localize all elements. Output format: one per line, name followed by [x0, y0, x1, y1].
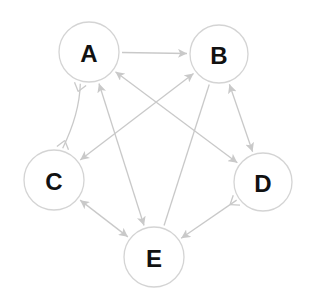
node-label: E	[146, 245, 162, 272]
edge-b-d	[229, 84, 252, 151]
edge-c-e	[80, 200, 128, 237]
edge-a-b	[122, 53, 187, 54]
nodes-layer: ABCDE	[24, 22, 292, 287]
node-e[interactable]: E	[124, 227, 184, 287]
node-label: D	[254, 170, 271, 197]
node-b[interactable]: B	[190, 25, 248, 83]
graph-diagram: ABCDE	[0, 0, 311, 297]
node-a[interactable]: A	[59, 22, 119, 82]
edge-d-e	[181, 195, 240, 238]
edge-a-c	[57, 82, 86, 150]
node-d[interactable]: D	[234, 153, 292, 211]
fork-tail-icon	[57, 140, 69, 149]
edge-a-d	[115, 72, 237, 163]
node-label: B	[210, 42, 227, 69]
node-label: A	[80, 40, 97, 67]
edge-b-e	[164, 84, 209, 225]
node-c[interactable]: C	[24, 150, 84, 210]
node-label: C	[45, 168, 62, 195]
edge-a-e	[99, 83, 144, 225]
